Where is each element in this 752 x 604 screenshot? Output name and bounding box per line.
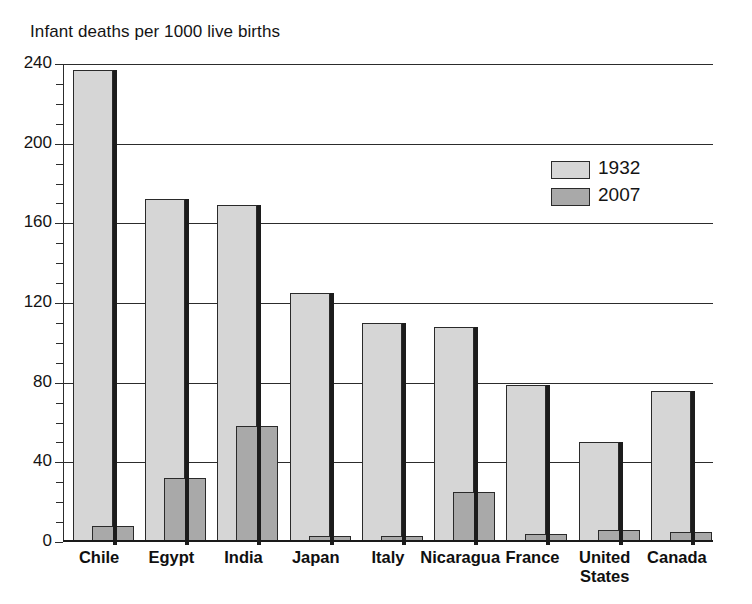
legend-label-1932: 1932 (598, 157, 640, 179)
legend-label-2007: 2007 (598, 184, 640, 206)
legend-item-2007: 2007 (551, 185, 681, 212)
bar-shadow (474, 492, 478, 545)
bar-1932-united-states (579, 442, 619, 542)
y-axis-label-120: 120 (24, 292, 52, 312)
legend-swatch-2007 (551, 188, 590, 206)
bar-shadow (402, 323, 406, 545)
bar-shadow (113, 526, 117, 545)
gridline (63, 144, 713, 145)
bar-shadow (330, 293, 334, 545)
infant-mortality-bar-chart: Infant deaths per 1000 live births 04080… (0, 0, 752, 604)
x-axis-label-canada: Canada (631, 548, 723, 567)
y-tick-major (55, 303, 63, 304)
y-tick-minor (56, 502, 63, 503)
legend-item-1932: 1932 (551, 158, 681, 185)
bar-shadow (257, 426, 261, 545)
y-axis-label-160: 160 (24, 212, 52, 232)
bar-1932-france (506, 385, 546, 542)
y-tick-minor (56, 164, 63, 165)
bar-1932-italy (362, 323, 402, 542)
legend-swatch-1932 (551, 161, 590, 179)
y-tick-minor (56, 84, 63, 85)
y-tick-minor (56, 442, 63, 443)
y-tick-major (55, 462, 63, 463)
bar-shadow (113, 70, 117, 545)
y-tick-minor (56, 203, 63, 204)
y-tick-major (55, 144, 63, 145)
y-tick-minor (56, 403, 63, 404)
y-tick-major (55, 542, 63, 543)
bar-1932-chile (73, 70, 113, 542)
bar-shadow (691, 532, 695, 545)
bar-shadow (185, 478, 189, 545)
chart-legend: 19322007 (551, 158, 681, 212)
y-axis-label-80: 80 (33, 372, 52, 392)
y-tick-major (55, 223, 63, 224)
bar-shadow (546, 385, 550, 545)
y-axis-label-200: 200 (24, 133, 52, 153)
y-tick-minor (56, 263, 63, 264)
y-axis-label-40: 40 (33, 451, 52, 471)
bar-shadow (619, 530, 623, 545)
y-tick-major (55, 64, 63, 65)
x-axis-category-labels: ChileEgyptIndiaJapanItalyNicaraguaFrance… (0, 548, 752, 604)
y-tick-minor (56, 363, 63, 364)
y-axis-label-240: 240 (24, 53, 52, 73)
x-axis-baseline (63, 540, 713, 542)
plot-area (63, 64, 713, 542)
y-tick-minor (56, 243, 63, 244)
y-tick-minor (56, 343, 63, 344)
y-tick-minor (56, 283, 63, 284)
y-tick-minor (56, 423, 63, 424)
chart-title: Infant deaths per 1000 live births (30, 22, 280, 42)
y-tick-minor (56, 104, 63, 105)
bar-shadow (691, 391, 695, 545)
bar-1932-japan (290, 293, 330, 542)
y-tick-minor (56, 184, 63, 185)
y-tick-minor (56, 482, 63, 483)
bar-1932-canada (651, 391, 691, 542)
y-tick-minor (56, 522, 63, 523)
gridline (63, 64, 713, 65)
y-axis-tick-labels: 04080120160200240 (0, 0, 52, 604)
y-tick-minor (56, 124, 63, 125)
y-tick-major (55, 383, 63, 384)
y-tick-minor (56, 323, 63, 324)
